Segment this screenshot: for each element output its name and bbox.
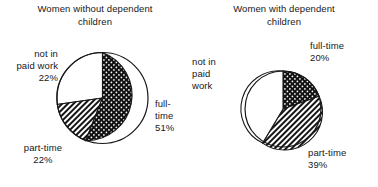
pie-chart-figure: Women without dependent children bbox=[0, 0, 378, 187]
label-right-part-time: part-time 39% bbox=[308, 147, 372, 171]
chart-title-right: Women with dependent children bbox=[204, 3, 364, 28]
panel-women-without-dependent-children: Women without dependent children bbox=[0, 0, 190, 187]
panel-women-with-dependent-children: Women with dependent children bbox=[190, 0, 378, 187]
label-left-full-time: full- time 51% bbox=[155, 98, 189, 135]
slice-left-not-in-paid-work bbox=[57, 52, 103, 104]
label-right-not-in-paid-work: not in paid work bbox=[192, 56, 232, 93]
label-right-full-time: full-time 20% bbox=[310, 40, 372, 64]
label-left-not-in-paid-work: not in paid work 22% bbox=[2, 48, 58, 85]
label-left-part-time: part-time 22% bbox=[12, 142, 74, 166]
chart-title-left: Women without dependent children bbox=[14, 3, 176, 28]
cut-off-caption-line bbox=[0, 179, 378, 187]
